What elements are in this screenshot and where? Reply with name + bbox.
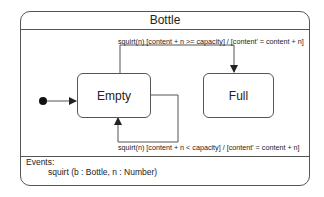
state-machine-diagram: Bottle Empty Full squirt(n) [content + n… (0, 0, 324, 197)
transition-label-empty-to-full: squirt(n) [content + n >= capacity] / [c… (118, 37, 304, 46)
event-squirt: squirt (b : Bottle, n : Number) (48, 167, 157, 177)
state-full-label: Full (229, 89, 248, 103)
transition-label-empty-self: squirt(n) [content + n < capacity] / [co… (118, 143, 300, 152)
events-heading: Events: (26, 157, 54, 167)
initial-state-dot (39, 97, 47, 105)
transition-empty-to-full (120, 45, 234, 73)
state-full: Full (203, 73, 274, 118)
state-empty-label: Empty (97, 89, 131, 103)
state-empty: Empty (77, 73, 151, 118)
